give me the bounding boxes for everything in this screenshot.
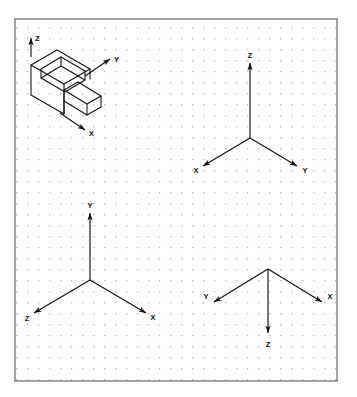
iso-axis-label-y: Y [114,55,119,64]
tr-axis-label-y: Y [302,166,307,175]
bl-axis-label-z: Z [25,314,30,323]
br-axis-label-x: X [327,292,332,301]
br-axis-label-y: Y [203,292,208,301]
bl-axis-label-y: Y [87,201,92,210]
br-axis-label-z: Z [266,340,271,349]
isometric-axes-figure: Z Y X Z X Y Y Z X Z Y X [0,0,357,397]
bl-axis-label-x: X [150,313,155,322]
iso-axis-label-z: Z [35,34,40,43]
figure-canvas: Z Y X Z X Y Y Z X Z Y X [0,0,357,397]
iso-axis-label-x: X [89,129,94,138]
tr-axis-label-z: Z [248,51,253,60]
tr-axis-label-x: X [193,166,198,175]
dot-grid-field [15,19,337,381]
